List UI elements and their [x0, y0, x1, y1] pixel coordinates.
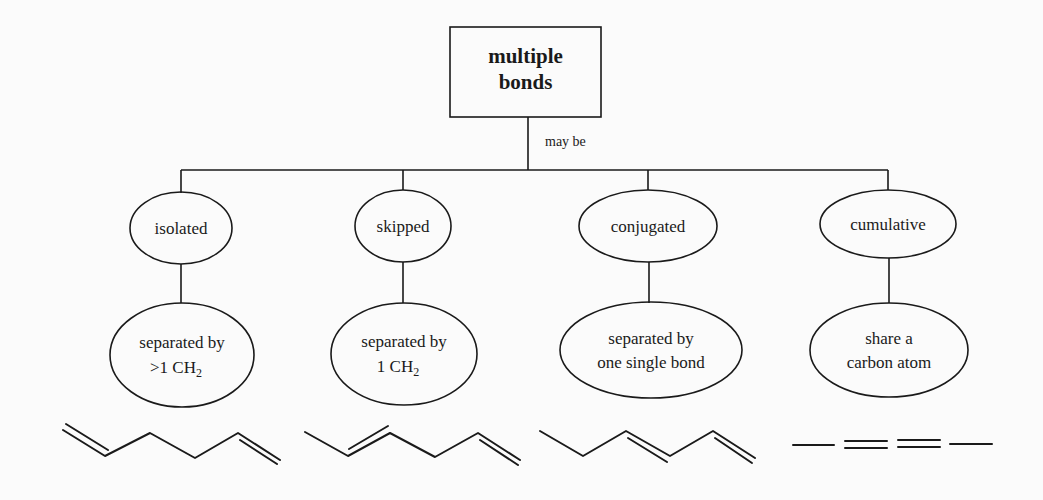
- desc-ellipse-conjugated: [560, 302, 742, 398]
- desc-cumulative: share a carbon atom: [810, 303, 968, 397]
- root-label-line2: bonds: [499, 70, 553, 94]
- desc-ellipse-isolated: [110, 303, 254, 407]
- root-label-line1: multiple: [488, 44, 563, 68]
- multiple-bonds-concept-map: multiple bonds may be isolated skipped c…: [0, 0, 1043, 500]
- desc-conjugated-line1: separated by: [608, 329, 694, 348]
- label-conjugated: conjugated: [611, 217, 686, 236]
- molecule-skipped: [305, 426, 520, 465]
- desc-cumulative-line1: share a: [865, 329, 913, 348]
- node-isolated: isolated: [130, 192, 232, 264]
- node-conjugated: conjugated: [579, 190, 717, 262]
- desc-conjugated-line2: one single bond: [597, 353, 705, 372]
- label-skipped: skipped: [377, 217, 430, 236]
- label-isolated: isolated: [155, 219, 208, 238]
- desc-isolated-line2: >1 CH2: [150, 358, 202, 380]
- edge-label-may-be: may be: [545, 134, 586, 149]
- desc-isolated-line1: separated by: [139, 333, 225, 352]
- molecule-cumulative: [793, 440, 992, 448]
- desc-conjugated: separated by one single bond: [560, 302, 742, 398]
- molecule-conjugated: [540, 431, 755, 463]
- node-cumulative: cumulative: [820, 190, 956, 258]
- node-skipped: skipped: [355, 190, 451, 262]
- root-node: multiple bonds: [450, 27, 601, 117]
- desc-cumulative-line2: carbon atom: [847, 353, 932, 372]
- molecule-isolated: [63, 424, 280, 464]
- desc-ellipse-cumulative: [810, 303, 968, 397]
- label-cumulative: cumulative: [850, 215, 926, 234]
- desc-isolated: separated by >1 CH2: [110, 303, 254, 407]
- desc-skipped-line2: 1 CH2: [377, 357, 419, 379]
- desc-skipped: separated by 1 CH2: [331, 303, 477, 405]
- desc-skipped-line1: separated by: [361, 332, 447, 351]
- desc-ellipse-skipped: [331, 303, 477, 405]
